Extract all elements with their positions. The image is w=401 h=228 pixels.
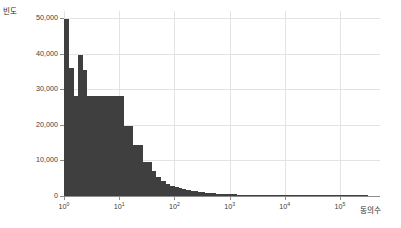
- x-tick-mark: [230, 196, 231, 200]
- x-axis-title: 동의수: [360, 207, 381, 215]
- y-tick-mark: [60, 18, 64, 19]
- x-tick-mark: [340, 196, 341, 200]
- y-tick-label: 10,000: [36, 156, 58, 163]
- x-tick-label: 105: [335, 203, 346, 210]
- x-tick-mark: [64, 196, 65, 200]
- x-tick-label: 104: [279, 203, 290, 210]
- x-tick-mark: [285, 196, 286, 200]
- y-tick-label: 30,000: [36, 85, 58, 92]
- x-tick-label: 102: [169, 203, 180, 210]
- y-tick-label: 0: [54, 192, 58, 199]
- y-tick-label: 40,000: [36, 50, 58, 57]
- plot-area: [64, 11, 380, 196]
- x-tick-label: 100: [59, 203, 70, 210]
- bar-series: [64, 11, 380, 196]
- x-tick-label: 103: [224, 203, 235, 210]
- x-tick-label: 101: [114, 203, 125, 210]
- y-tick-mark: [60, 89, 64, 90]
- gridline-horizontal: [64, 196, 380, 197]
- y-tick-label: 50,000: [36, 14, 58, 21]
- y-tick-mark: [60, 54, 64, 55]
- x-tick-mark: [119, 196, 120, 200]
- x-tick-mark: [174, 196, 175, 200]
- y-tick-mark: [60, 160, 64, 161]
- y-tick-label: 20,000: [36, 121, 58, 128]
- histogram-figure: 빈도 동의수 010,00020,00030,00040,00050,000 1…: [0, 0, 401, 228]
- y-tick-mark: [60, 125, 64, 126]
- y-axis-title: 빈도: [3, 8, 17, 16]
- bar: [365, 195, 368, 196]
